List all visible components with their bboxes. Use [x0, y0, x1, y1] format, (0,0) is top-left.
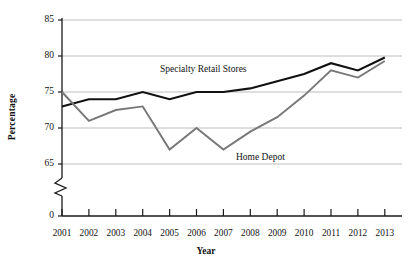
line-chart: Percentage Year 85807570650 200120022003… [0, 0, 412, 266]
x-tick-marks [62, 209, 385, 216]
y-tick-label: 85 [28, 14, 54, 24]
y-tick-label: 0 [28, 210, 54, 220]
x-axis-title: Year [0, 246, 412, 256]
x-tick-label: 2013 [368, 228, 402, 238]
chart-canvas [0, 0, 412, 266]
series-label-home-depot: Home Depot [236, 152, 285, 162]
gridlines [62, 20, 402, 164]
series-label-specialty-retail-stores: Specialty Retail Stores [160, 64, 247, 74]
y-tick-label: 75 [28, 86, 54, 96]
y-tick-label: 80 [28, 50, 54, 60]
y-axis-break-symbol [55, 178, 66, 196]
y-tick-label: 65 [28, 158, 54, 168]
y-tick-label: 70 [28, 122, 54, 132]
axis-lines [62, 18, 402, 216]
y-axis-title: Percentage [7, 77, 17, 157]
